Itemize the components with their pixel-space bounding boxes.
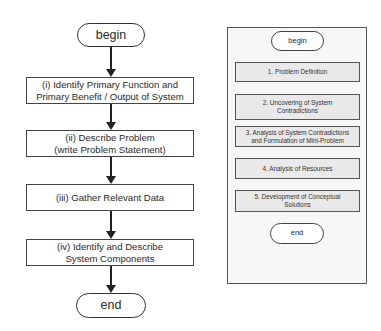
step-label-line1: 3. Analysis of System Contradictions — [246, 129, 349, 137]
step-conceptual-solutions: 5. Development of Conceptual Solutions — [235, 190, 360, 212]
step-describe-problem: (ii) Describe Problem (write Problem Sta… — [26, 130, 194, 157]
step-label-line1: (iv) Identify and Describe — [57, 241, 163, 252]
step-label-line1: 4. Analysis of Resources — [263, 165, 333, 173]
begin-terminal: begin — [271, 31, 324, 51]
begin-terminal: begin — [77, 23, 145, 47]
end-terminal: end — [270, 223, 324, 244]
step-label-line1: 1. Problem Definition — [268, 68, 327, 76]
step-label-line1: (i) Identify Primary Function and — [36, 79, 184, 90]
begin-label: begin — [288, 37, 307, 46]
step-identify-components: (iv) Identify and Describe System Compon… — [26, 239, 194, 266]
step-label-line2: System Components — [57, 253, 163, 264]
step-label-line2: Primary Benefit / Output of System — [36, 91, 184, 102]
step-label-line1: 2. Uncovering of System — [263, 99, 333, 107]
begin-label: begin — [96, 28, 127, 43]
step-uncovering-contradictions: 2. Uncovering of System Contradictions — [235, 94, 360, 120]
end-label: end — [101, 298, 122, 313]
step-identify-primary-function: (i) Identify Primary Function and Primar… — [26, 77, 194, 104]
step-label-line2: (write Problem Statement) — [54, 144, 165, 155]
step-analysis-contradictions: 3. Analysis of System Contradictions and… — [235, 126, 360, 147]
step-label-line1: (iii) Gather Relevant Data — [56, 192, 164, 203]
step-label-line1: 5. Development of Conceptual — [255, 193, 341, 201]
step-label-line2: and Formulation of Mini-Problem — [246, 137, 349, 145]
step-problem-definition: 1. Problem Definition — [235, 62, 360, 82]
end-label: end — [291, 229, 304, 238]
step-label-line2: Solutions — [255, 201, 341, 209]
step-label-line1: (ii) Describe Problem — [54, 132, 165, 143]
end-terminal: end — [76, 293, 146, 318]
step-gather-data: (iii) Gather Relevant Data — [26, 184, 194, 211]
step-label-line2: Contradictions — [263, 107, 333, 115]
step-analysis-resources: 4. Analysis of Resources — [235, 158, 360, 179]
